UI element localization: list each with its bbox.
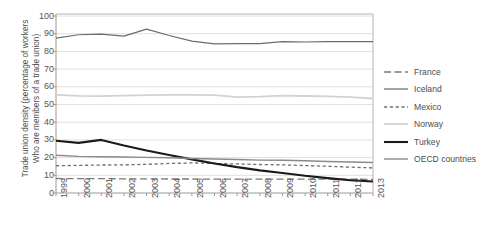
x-axis-tick-2002: 2002 bbox=[128, 178, 137, 198]
legend-swatch-oecd-countries bbox=[383, 154, 409, 164]
legend-item-iceland[interactable]: Iceland bbox=[383, 81, 491, 99]
x-axis-tick-2010: 2010 bbox=[309, 178, 318, 198]
legend-swatch-mexico bbox=[383, 102, 409, 112]
x-axis-tick-2005: 2005 bbox=[196, 178, 205, 198]
legend-swatch-turkey bbox=[383, 137, 409, 147]
x-axis-tick-2004: 2004 bbox=[173, 178, 182, 198]
legend-label: Mexico bbox=[414, 102, 441, 112]
legend: FranceIcelandMexicoNorwayTurkeyOECD coun… bbox=[383, 63, 491, 168]
x-axis-tick-2009: 2009 bbox=[286, 178, 295, 198]
legend-item-france[interactable]: France bbox=[383, 63, 491, 81]
x-axis-tick-2001: 2001 bbox=[105, 178, 114, 198]
x-axis-tick-1999: 1999 bbox=[60, 178, 69, 198]
legend-swatch-iceland bbox=[383, 84, 409, 94]
legend-item-mexico[interactable]: Mexico bbox=[383, 98, 491, 116]
legend-item-norway[interactable]: Norway bbox=[383, 116, 491, 134]
x-axis-tick-2007: 2007 bbox=[241, 178, 250, 198]
x-axis-tick-2000: 2000 bbox=[83, 178, 92, 198]
series-line-norway bbox=[56, 95, 373, 99]
legend-label: OECD countries bbox=[414, 154, 476, 164]
x-axis-tick-2012: 2012 bbox=[354, 178, 363, 198]
legend-item-turkey[interactable]: Turkey bbox=[383, 133, 491, 151]
line-chart: Trade union density (percentage of worke… bbox=[0, 0, 492, 250]
x-axis-tick-2013: 2013 bbox=[377, 178, 386, 198]
x-axis-tick-2006: 2006 bbox=[219, 178, 228, 198]
legend-label: Iceland bbox=[414, 84, 442, 94]
legend-swatch-norway bbox=[383, 119, 409, 129]
x-axis-tick-2011: 2011 bbox=[332, 179, 341, 198]
legend-label: Turkey bbox=[414, 137, 440, 147]
legend-swatch-france bbox=[383, 67, 409, 77]
x-axis-tick-2008: 2008 bbox=[264, 178, 273, 198]
series-line-oecd-countries bbox=[56, 155, 373, 162]
series-line-iceland bbox=[56, 29, 373, 44]
legend-label: Norway bbox=[414, 119, 443, 129]
legend-item-oecd-countries[interactable]: OECD countries bbox=[383, 151, 491, 169]
legend-label: France bbox=[414, 67, 441, 77]
x-axis-tick-2003: 2003 bbox=[151, 178, 160, 198]
